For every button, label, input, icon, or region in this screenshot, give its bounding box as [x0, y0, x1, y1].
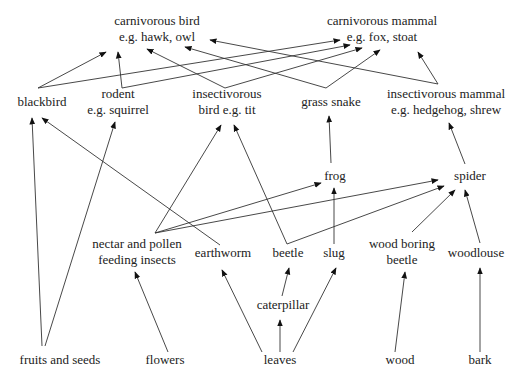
arrow-fruits-seeds-to-blackbird [32, 118, 42, 346]
node-insectivorous-bird: insectivorousbird e.g. tit [192, 86, 261, 117]
node-label: spider [454, 168, 486, 183]
node-label: blackbird [17, 94, 67, 109]
node-label: bark [468, 352, 492, 367]
arrow-rodent-to-carnivorous-bird [118, 52, 122, 88]
node-label: e.g. hawk, owl [119, 29, 196, 44]
node-label: wood boring [369, 236, 436, 251]
node-bark: bark [468, 352, 492, 367]
node-carnivorous-bird: carnivorous birde.g. hawk, owl [114, 13, 200, 44]
arrow-rodent-to-carnivorous-mammal [122, 45, 350, 88]
arrow-nectar-insects-to-spider [155, 180, 438, 233]
node-caterpillar: caterpillar [257, 297, 310, 312]
node-label: carnivorous bird [114, 13, 200, 28]
node-label: e.g. hedgehog, shrew [391, 102, 502, 117]
node-label: insectivorous [192, 86, 261, 101]
arrow-wood-to-wood-boring-beetle [395, 272, 405, 352]
node-beetle: beetle [272, 245, 303, 260]
node-frog: frog [324, 168, 346, 183]
node-label: nectar and pollen [92, 236, 182, 251]
node-label: carnivorous mammal [327, 13, 437, 28]
node-label: bird e.g. tit [198, 102, 255, 117]
arrow-insectivorous-mammal-to-carnivorous-mammal [418, 52, 438, 84]
node-label: grass snake [301, 94, 361, 109]
arrow-insectivorous-bird-to-carnivorous-mammal [225, 48, 362, 88]
food-web-diagram: carnivorous birde.g. hawk, owlcarnivorou… [0, 0, 524, 388]
node-blackbird: blackbird [17, 94, 67, 109]
node-spider: spider [454, 168, 486, 183]
node-wood-boring-beetle: wood boringbeetle [369, 236, 436, 267]
arrow-fruits-seeds-to-rodent [45, 122, 115, 346]
node-label: e.g. squirrel [87, 102, 149, 117]
node-label: rodent [101, 86, 135, 101]
arrow-woodlouse-to-spider [465, 190, 480, 243]
node-flowers: flowers [146, 352, 185, 367]
arrow-beetle-to-insectivorous-bird [234, 125, 287, 244]
node-label: leaves [264, 352, 296, 367]
arrow-insectivorous-mammal-to-carnivorous-bird [210, 40, 438, 84]
arrow-spider-to-insectivorous-mammal [449, 123, 465, 164]
node-label: wood [386, 352, 415, 367]
node-grass-snake: grass snake [301, 94, 361, 109]
arrow-caterpillar-to-beetle [282, 268, 289, 296]
node-label: slug [323, 245, 345, 260]
node-insectivorous-mammal: insectivorous mammale.g. hedgehog, shrew [387, 86, 505, 117]
node-fruits-seeds: fruits and seeds [20, 352, 101, 367]
arrow-flowers-to-nectar-insects [135, 272, 168, 352]
node-carnivorous-mammal: carnivorous mammale.g. fox, stoat [327, 13, 437, 44]
node-nectar-insects: nectar and pollenfeeding insects [92, 236, 182, 267]
node-label: earthworm [195, 245, 251, 260]
node-woodlouse: woodlouse [448, 245, 505, 260]
node-slug: slug [323, 245, 345, 260]
arrow-frog-to-grass-snake [329, 116, 331, 163]
node-label: insectivorous mammal [387, 86, 505, 101]
node-label: fruits and seeds [20, 352, 101, 367]
node-leaves: leaves [264, 352, 296, 367]
node-label: flowers [146, 352, 185, 367]
node-label: e.g. fox, stoat [347, 29, 418, 44]
arrow-nectar-insects-to-frog [155, 183, 321, 233]
node-earthworm: earthworm [195, 245, 251, 260]
node-label: feeding insects [98, 252, 176, 267]
node-label: caterpillar [257, 297, 310, 312]
node-label: beetle [272, 245, 303, 260]
arrow-wood-boring-beetle-to-spider [412, 190, 455, 232]
node-label: frog [324, 168, 346, 183]
arrow-nectar-insects-to-insectivorous-bird [155, 125, 221, 233]
node-rodent: rodente.g. squirrel [87, 86, 149, 117]
node-wood: wood [386, 352, 415, 367]
node-label: woodlouse [448, 245, 505, 260]
node-label: beetle [386, 252, 417, 267]
